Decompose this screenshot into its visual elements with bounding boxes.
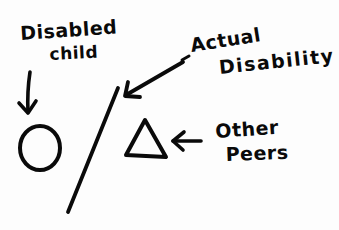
triangle-shape bbox=[126, 120, 166, 157]
circle-shape bbox=[20, 126, 60, 170]
label-other: Other bbox=[215, 118, 280, 141]
label-child: child bbox=[49, 43, 98, 63]
down-arrow-icon bbox=[19, 72, 36, 113]
label-peers: Peers bbox=[225, 143, 289, 164]
left-arrow-icon bbox=[173, 132, 201, 150]
slash-line bbox=[68, 88, 118, 212]
diagonal-arrow-icon bbox=[125, 56, 189, 97]
drawing-canvas: Disabled child Actual Disability Other P… bbox=[0, 0, 339, 230]
